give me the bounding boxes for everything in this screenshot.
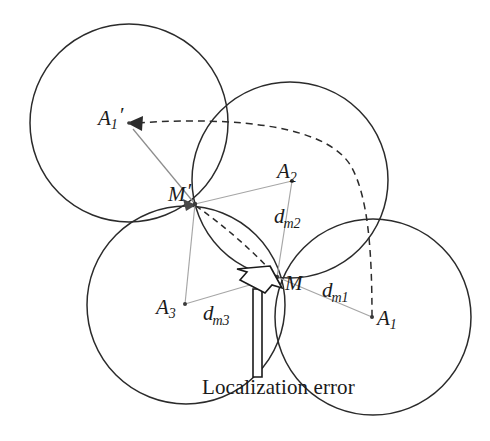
caption-localization-error: Localization error [202,377,355,398]
label-dist-m2-base: d [274,204,285,228]
label-anchor1-shifted-sub: 1 [111,117,118,132]
radius-line-mprime-anchor2 [195,181,292,204]
dashed-displacement-curve [196,206,276,276]
label-anchor2: A2 [277,161,297,182]
label-node-estimated-base: M [168,182,186,206]
label-anchor1-shifted-prime: ′ [119,103,124,127]
label-dist-m1: dm1 [322,280,350,301]
label-anchor2-sub: 2 [290,170,297,185]
dot-node-estimated [193,202,197,206]
label-dist-m3: dm3 [203,303,231,324]
label-node-estimated-prime: ′ [187,179,192,203]
label-dist-m3-base: d [203,301,214,325]
label-dist-m3-sub: m3 [213,313,230,328]
label-anchor1: A1 [377,308,397,329]
dot-anchor3 [183,302,187,306]
label-node-true: M [285,273,303,294]
label-dist-m1-base: d [322,278,333,302]
dot-anchor1 [370,315,374,319]
label-dist-m1-sub: m1 [332,290,349,305]
label-dist-m2-sub: m2 [284,216,301,231]
label-anchor1-base: A [377,306,390,330]
radius-line-mprime-anchor3 [185,204,195,304]
label-anchor1-shifted-base: A [98,106,111,130]
label-node-estimated: M′ [168,184,190,205]
label-anchor3: A3 [156,297,176,318]
label-node-true-base: M [285,271,303,295]
label-anchor3-base: A [156,295,169,319]
label-anchor2-base: A [277,159,290,183]
label-anchor1-shifted: A1′ [98,108,122,129]
dot-anchor1-shifted [127,121,131,125]
localization-error-figure: A1′ A2 A1 A3 M′ M dm1 dm2 dm3 Localizati… [0,0,490,441]
label-anchor1-sub: 1 [390,317,397,332]
label-dist-m2: dm2 [274,206,302,227]
label-anchor3-sub: 3 [169,306,176,321]
